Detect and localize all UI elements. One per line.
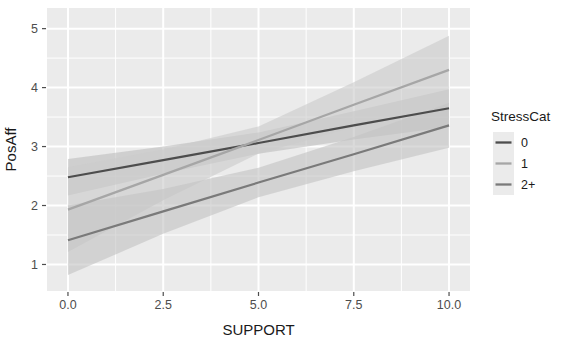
y-axis-tick-label: 2 <box>31 199 38 213</box>
legend: StressCat012+ <box>491 109 551 195</box>
x-axis-tick-label: 2.5 <box>155 298 172 312</box>
y-axis-title: PosAff <box>2 127 19 172</box>
legend-label-2plus: 2+ <box>521 178 535 192</box>
y-axis-tick-label: 5 <box>31 22 38 36</box>
x-axis-tick-label: 5.0 <box>250 298 267 312</box>
y-axis-tick-label: 1 <box>31 258 38 272</box>
scatter-line-chart: 0.02.55.07.510.012345SUPPORTPosAffStress… <box>0 0 570 343</box>
legend-label-1: 1 <box>521 157 528 171</box>
y-axis-tick-label: 3 <box>31 140 38 154</box>
x-axis-tick-label: 7.5 <box>345 298 362 312</box>
x-axis-tick-label: 10.0 <box>437 298 461 312</box>
y-axis-tick-label: 4 <box>31 81 38 95</box>
legend-title: StressCat <box>491 109 551 124</box>
x-axis-title: SUPPORT <box>222 321 294 338</box>
x-axis-tick-label: 0.0 <box>59 298 76 312</box>
legend-label-0: 0 <box>521 136 528 150</box>
chart-container: 0.02.55.07.510.012345SUPPORTPosAffStress… <box>0 0 570 343</box>
